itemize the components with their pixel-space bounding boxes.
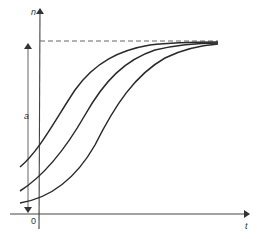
growth-curve-2: [20, 43, 218, 191]
logistic-growth-diagram: n t 0 a: [0, 0, 257, 239]
x-axis-label: t: [245, 221, 248, 231]
origin-label: 0: [31, 216, 36, 226]
y-axis-label: n: [31, 7, 36, 17]
y-axis: [39, 9, 40, 229]
growth-curve-1: [20, 42, 218, 167]
growth-curve-3: [20, 44, 218, 203]
asymptote-label: a: [24, 111, 29, 121]
